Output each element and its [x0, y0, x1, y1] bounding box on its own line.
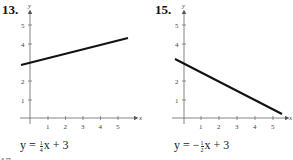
svg-text:5: 5 [175, 22, 179, 30]
svg-text:3: 3 [81, 123, 85, 131]
svg-text:3: 3 [235, 123, 239, 131]
equation-label: y = 14x + 3 [20, 138, 69, 153]
equation-label: y = −12x + 3 [174, 138, 229, 153]
svg-text:1: 1 [21, 97, 25, 105]
x-axis-label: x [288, 114, 293, 122]
svg-text:2: 2 [175, 78, 179, 86]
svg-text:1: 1 [175, 97, 179, 105]
svg-text:4: 4 [21, 41, 25, 49]
svg-text:5: 5 [21, 22, 25, 30]
svg-text:4: 4 [175, 41, 179, 49]
svg-text:1: 1 [46, 123, 50, 131]
y-axis-label: y [27, 2, 32, 10]
chart-13: y x 5 4 2 1 1 2 3 4 5 [0, 0, 146, 135]
svg-text:1: 1 [199, 123, 203, 131]
x-axis-label: x [138, 114, 143, 122]
graph-panel-13: 13. y x 5 4 2 1 1 2 [0, 0, 146, 160]
svg-text:2: 2 [217, 123, 221, 131]
data-line [175, 59, 282, 114]
svg-text:4: 4 [253, 123, 257, 131]
graph-panel-15: 15. y x 5 4 2 1 1 2 3 4 [146, 0, 293, 160]
svg-text:4: 4 [99, 123, 103, 131]
y-axis-label: y [181, 2, 186, 10]
svg-text:2: 2 [21, 78, 25, 86]
next-problem-cutoff: 17. [0, 155, 14, 160]
svg-text:5: 5 [116, 123, 120, 131]
chart-15: y x 5 4 2 1 1 2 3 4 5 [146, 0, 293, 135]
data-line [21, 38, 128, 65]
svg-text:2: 2 [64, 123, 68, 131]
svg-text:5: 5 [271, 123, 275, 131]
